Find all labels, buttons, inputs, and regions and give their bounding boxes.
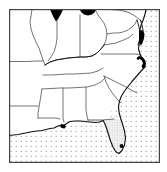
marker-south-florida	[120, 144, 124, 148]
distribution-map-figure	[0, 0, 167, 172]
border-missouri-south	[10, 61, 43, 62]
map-canvas	[0, 0, 167, 172]
